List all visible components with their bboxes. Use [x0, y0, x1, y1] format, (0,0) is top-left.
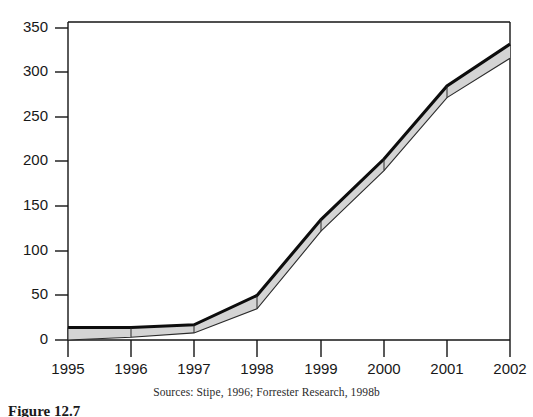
source-note: Sources: Stipe, 1996; Forrester Research… — [0, 386, 533, 398]
plot-frame — [68, 22, 510, 340]
x-tick-label-1995: 1995 — [51, 360, 84, 377]
y-tick-label-150: 150 — [23, 196, 48, 213]
x-tick-label-2002: 2002 — [493, 360, 526, 377]
x-tick-label-1997: 1997 — [177, 360, 210, 377]
x-tick-label-1996: 1996 — [114, 360, 147, 377]
figure-container: 350 300 250 200 150 100 50 0 — [0, 0, 533, 417]
band-year-connectors — [68, 86, 447, 340]
x-tick-label-2000: 2000 — [367, 360, 400, 377]
x-tick-label-1998: 1998 — [240, 360, 273, 377]
y-axis-ticks — [55, 28, 68, 340]
y-tick-label-100: 100 — [23, 241, 48, 258]
y-tick-label-50: 50 — [31, 285, 48, 302]
figure-caption: Figure 12.7 — [8, 404, 208, 417]
x-axis-labels: 1995 1996 1997 1998 1999 2000 2001 2002 — [51, 360, 526, 377]
area-chart: 350 300 250 200 150 100 50 0 — [0, 0, 533, 395]
x-axis-ticks — [68, 340, 510, 357]
y-tick-label-350: 350 — [23, 18, 48, 35]
y-tick-label-300: 300 — [23, 62, 48, 79]
y-tick-label-250: 250 — [23, 107, 48, 124]
y-axis-labels: 350 300 250 200 150 100 50 0 — [23, 18, 48, 347]
upper-estimate-line — [68, 44, 510, 327]
y-tick-label-200: 200 — [23, 151, 48, 168]
x-tick-label-1999: 1999 — [304, 360, 337, 377]
x-tick-label-2001: 2001 — [430, 360, 463, 377]
y-tick-label-0: 0 — [40, 330, 48, 347]
